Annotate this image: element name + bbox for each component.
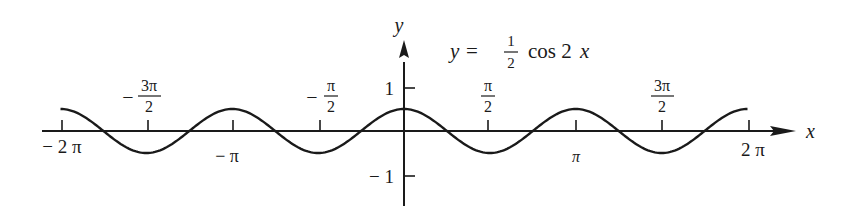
cosine-graph: x y 1 − 1 − 2 π − π π 2 π − 3π 2 − π 2 <box>0 0 848 217</box>
x-ticks <box>62 120 749 131</box>
svg-text:y: y <box>448 39 460 63</box>
x-tick-label-negpi: − π <box>215 146 239 166</box>
x-tick-label-2pi: 2 π <box>741 139 765 160</box>
y-axis-arrow-icon <box>399 40 409 58</box>
svg-text:−: − <box>306 86 317 108</box>
x-axis: x <box>42 120 815 142</box>
y-tick-label-1: 1 <box>385 78 395 99</box>
x-tick-label-negpi-over-2: − π 2 <box>306 77 338 115</box>
svg-text:2: 2 <box>484 98 492 115</box>
svg-text:2: 2 <box>658 98 666 115</box>
y-axis-label: y <box>393 14 404 37</box>
svg-text:π: π <box>327 77 335 94</box>
x-tick-label-neg3pi-over-2: − 3π 2 <box>122 77 161 115</box>
equation-label: y = 1 2 cos 2 x <box>448 33 590 71</box>
svg-text:=: = <box>466 39 478 63</box>
svg-text:cos 2: cos 2 <box>528 39 572 63</box>
x-tick-label-pi: π <box>572 148 581 165</box>
svg-text:2: 2 <box>327 98 335 115</box>
x-tick-label-3pi-over-2: 3π 2 <box>651 77 674 115</box>
x-axis-label: x <box>805 120 815 142</box>
svg-text:π: π <box>484 77 492 94</box>
y-tick-label-neg1: − 1 <box>369 166 394 187</box>
svg-text:3π: 3π <box>654 77 670 94</box>
x-tick-label-neg2pi: − 2 π <box>42 136 82 157</box>
svg-text:3π: 3π <box>141 77 157 94</box>
svg-text:2: 2 <box>507 55 515 71</box>
svg-text:1: 1 <box>507 33 515 49</box>
svg-text:2: 2 <box>145 98 153 115</box>
svg-text:x: x <box>579 39 590 63</box>
x-tick-label-pi-over-2: π 2 <box>481 77 495 115</box>
svg-text:−: − <box>122 86 133 108</box>
